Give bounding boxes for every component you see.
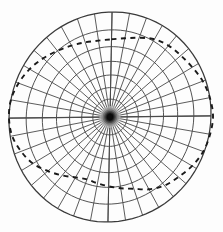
- polar-chart-canvas: [0, 0, 223, 232]
- core-group: [99, 106, 120, 128]
- polar-chart-figure: [0, 0, 223, 232]
